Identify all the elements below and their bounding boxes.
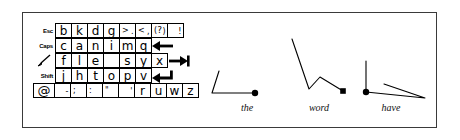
key-d[interactable]: d [87, 23, 104, 38]
key-space[interactable] [103, 53, 120, 68]
key-semicolon[interactable]: ; [70, 83, 87, 98]
gesture-the-dot [252, 90, 258, 96]
key-s[interactable]: s [119, 53, 136, 68]
key-o[interactable]: o [103, 68, 120, 83]
key-l[interactable]: l [71, 53, 88, 68]
key-c[interactable]: c [55, 38, 72, 53]
gesture-word-label: word [281, 103, 357, 113]
glyph-hyphen: - [66, 85, 68, 98]
backspace-arrow-icon[interactable] [151, 38, 175, 53]
key-r[interactable]: r [134, 83, 151, 98]
keyboard-row-3: f l e s y x [33, 53, 191, 68]
gesture-have-dot [363, 89, 369, 95]
key-k[interactable]: k [71, 23, 88, 38]
keyboard-row-4: Shift j h t o p v [33, 68, 175, 83]
gesture-the-path [209, 19, 285, 111]
key-w[interactable]: w [166, 83, 183, 98]
key-g[interactable]: g [103, 23, 120, 38]
gesture-the: the [209, 19, 285, 123]
gesture-word: word [281, 19, 357, 123]
gesture-have: have [355, 19, 431, 123]
keyboard-row-5: @ - ; : " ' r u w z [33, 83, 199, 98]
key-b[interactable]: b [55, 23, 72, 38]
key-esc[interactable]: Esc [33, 23, 55, 38]
key-q[interactable]: q [135, 38, 152, 53]
key-double-quote[interactable]: " [102, 83, 119, 98]
glyph-comma: , [147, 25, 149, 38]
key-a[interactable]: a [71, 38, 88, 53]
key-exclamation[interactable]: ! [167, 23, 184, 38]
glyph-paren-close: ) [162, 25, 165, 38]
key-i[interactable]: i [103, 38, 120, 53]
gesture-have-label: have [355, 103, 427, 113]
glyph-exclamation: ! [178, 25, 181, 38]
glyph-colon: : [89, 84, 91, 97]
key-greater-period[interactable]: > . [119, 23, 136, 38]
gesture-the-label: the [209, 103, 285, 113]
key-p[interactable]: p [119, 68, 136, 83]
gesture-word-dot [340, 88, 346, 94]
key-f[interactable]: f [55, 53, 72, 68]
key-t[interactable]: t [87, 68, 104, 83]
key-apostrophe[interactable]: ' [118, 83, 135, 98]
enter-arrow-icon[interactable] [151, 68, 175, 83]
tab-arrow-icon[interactable] [167, 53, 191, 68]
gesture-examples: the word have [209, 19, 435, 123]
key-x[interactable]: x [151, 53, 168, 68]
key-parens-question[interactable]: ( ? ) [151, 23, 168, 38]
key-j[interactable]: j [55, 68, 72, 83]
key-v[interactable]: v [135, 68, 152, 83]
key-y[interactable]: y [135, 53, 152, 68]
gesture-have-path [355, 19, 435, 111]
glyph-greater: > [122, 24, 128, 37]
key-e[interactable]: e [87, 53, 104, 68]
glyph-less: < [138, 24, 144, 37]
keyboard-row-2: Caps c a n i m q [33, 38, 175, 53]
glyph-question: ? [157, 26, 161, 35]
keyboard-row-1: Esc b k d g > . < , ( ? ) [33, 23, 184, 38]
key-h[interactable]: h [71, 68, 88, 83]
key-less-comma[interactable]: < , [135, 23, 152, 38]
glyph-paren-open: ( [154, 24, 157, 37]
key-m[interactable]: m [119, 38, 136, 53]
key-u[interactable]: u [150, 83, 167, 98]
key-at[interactable]: @ [33, 83, 55, 98]
gesture-word-path [281, 19, 357, 111]
key-shift[interactable]: Shift [33, 68, 55, 83]
key-n[interactable]: n [87, 38, 104, 53]
key-colon[interactable]: : [86, 83, 103, 98]
glyph-double-quote: " [105, 84, 108, 97]
key-caps-lock[interactable]: Caps [33, 38, 55, 53]
figure-frame: Esc b k d g > . < , ( ? ) [22, 12, 437, 128]
figure-canvas: Esc b k d g > . < , ( ? ) [0, 0, 460, 140]
key-z[interactable]: z [182, 83, 199, 98]
pen-stroke-icon[interactable] [33, 53, 55, 68]
gesture-keyboard: Esc b k d g > . < , ( ? ) [33, 23, 209, 119]
glyph-apostrophe: ' [130, 85, 132, 98]
key-hyphen[interactable]: - [54, 83, 71, 98]
glyph-period: . [131, 25, 133, 38]
glyph-semicolon: ; [73, 84, 75, 97]
